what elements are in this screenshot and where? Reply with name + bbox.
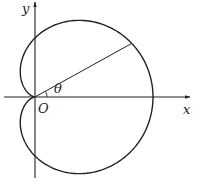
cardioid-diagram: y x O θ [0,0,202,186]
origin-label: O [38,101,49,116]
radius-line [35,43,132,97]
angle-arc [46,91,48,97]
x-axis-label: x [183,102,191,117]
y-axis-label: y [21,1,30,16]
angle-label: θ [54,81,62,96]
